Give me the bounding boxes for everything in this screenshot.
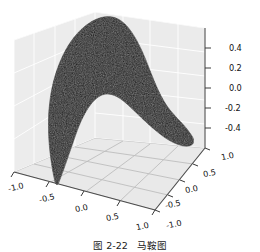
y-tick-label: 0.0 [184,184,198,195]
x-tick-label: 0.5 [105,212,119,223]
z-axis-ticks [205,48,211,128]
figure-caption-number: 图 2-22 [93,240,128,251]
surface-plot-figure: -1.0 -0.5 0.0 0.5 1.0 1.0 0.5 0.0 -0.5 -… [0,0,260,236]
y-tick-label: 0.5 [202,168,216,179]
z-tick-label: 0.0 [229,84,242,92]
z-tick-label: -0.4 [225,124,241,132]
figure-caption: 图 2-22马鞍图 [0,238,260,252]
y-tick-label: 1.0 [220,151,234,162]
z-tick-label: 0.2 [229,64,242,72]
x-tick-label: 1.0 [135,221,149,232]
z-tick-label: -0.2 [225,104,241,112]
figure-caption-title: 马鞍图 [137,240,167,251]
z-tick-label: 0.4 [229,44,242,52]
figure-page: -1.0 -0.5 0.0 0.5 1.0 1.0 0.5 0.0 -0.5 -… [0,0,260,252]
x-tick-label: 0.0 [74,203,88,214]
